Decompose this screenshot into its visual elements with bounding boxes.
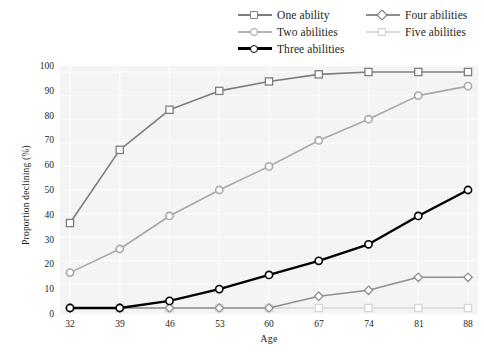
x-tick-46: 46: [150, 320, 190, 330]
x-tick-88: 88: [448, 320, 484, 330]
x-axis-tick-labels: 32 39 46 53 60 67 74 81 88: [0, 0, 484, 352]
x-tick-81: 81: [399, 320, 439, 330]
x-tick-39: 39: [100, 320, 140, 330]
chart-figure: One ability Four abilities Two abilities…: [0, 0, 484, 352]
x-tick-53: 53: [200, 320, 240, 330]
x-tick-60: 60: [249, 320, 289, 330]
x-tick-67: 67: [299, 320, 339, 330]
x-tick-74: 74: [349, 320, 389, 330]
x-tick-32: 32: [50, 320, 90, 330]
x-axis-title: Age: [60, 333, 478, 344]
